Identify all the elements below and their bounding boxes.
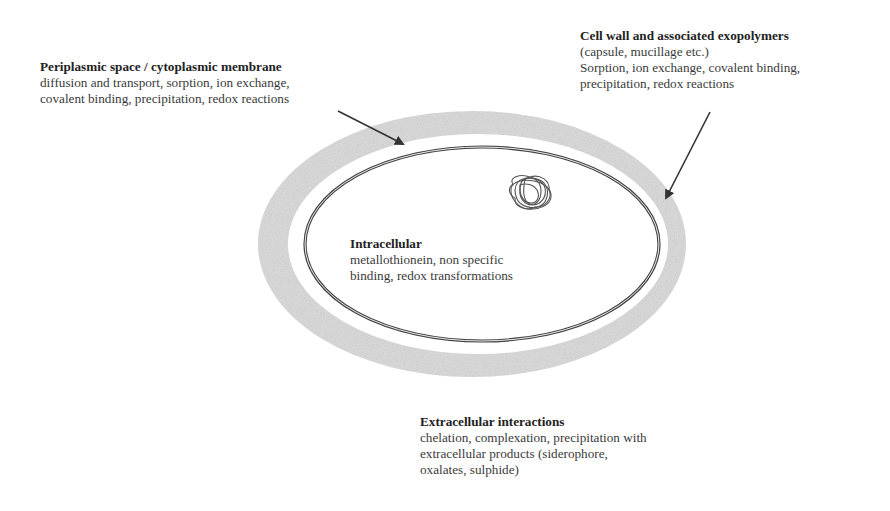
cell-wall-line-2: Sorption, ion exchange, covalent binding…: [580, 60, 800, 76]
cell-wall-title: Cell wall and associated exopolymers: [580, 28, 800, 44]
intracellular-line-2: binding, redox transformations: [350, 268, 513, 284]
cell-wall-arrow: [666, 112, 710, 198]
extracellular-label: Extracellular interactions chelation, co…: [420, 414, 647, 478]
extracellular-line-2: extracellular products (siderophore,: [420, 446, 647, 462]
intracellular-title: Intracellular: [350, 236, 513, 252]
cell-wall-line-1: (capsule, mucillage etc.): [580, 44, 800, 60]
periplasmic-line-1: diffusion and transport, sorption, ion e…: [40, 75, 290, 91]
extracellular-line-1: chelation, complexation, precipitation w…: [420, 430, 647, 446]
cell-wall-line-3: precipitation, redox reactions: [580, 76, 800, 92]
extracellular-title: Extracellular interactions: [420, 414, 647, 430]
cell-wall-label: Cell wall and associated exopolymers (ca…: [580, 28, 800, 92]
periplasmic-label: Periplasmic space / cytoplasmic membrane…: [40, 59, 290, 107]
periplasmic-title: Periplasmic space / cytoplasmic membrane: [40, 59, 290, 75]
intracellular-line-1: metallothionein, non specific: [350, 252, 513, 268]
extracellular-line-3: oxalates, sulphide): [420, 462, 647, 478]
periplasmic-line-2: covalent binding, precipitation, redox r…: [40, 91, 290, 107]
intracellular-label: Intracellular metallothionein, non speci…: [350, 236, 513, 284]
